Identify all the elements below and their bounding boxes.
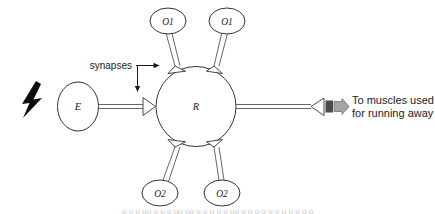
receptor-cell-e-label: E <box>74 101 82 112</box>
output-cell-o2-right-label: O2 <box>216 189 228 199</box>
receptor-cell-e: E <box>58 82 99 131</box>
arrow-right-icon <box>154 63 160 68</box>
synapse-terminal-e <box>143 98 156 116</box>
arrow-down-icon <box>135 86 140 92</box>
relay-neuron-r: R <box>156 67 236 147</box>
output-cell-o2-left: O2 <box>142 180 178 206</box>
relay-neuron-r-label: R <box>192 101 200 112</box>
output-cell-o2-right: O2 <box>204 180 240 206</box>
output-cell-o1-right-label: O1 <box>221 17 233 27</box>
synapses-label: synapses <box>90 60 132 71</box>
muscle-junction-block <box>326 101 334 113</box>
figure-canvas: E R O1 O1 <box>0 0 435 214</box>
output-arrow-icon <box>334 99 349 115</box>
axon-o2-right <box>207 140 225 181</box>
synapses-leader <box>135 63 160 92</box>
neural-circuit-diagram: E R O1 O1 <box>0 0 435 214</box>
axon-o1-right <box>207 32 228 74</box>
output-cell-o1-right: O1 <box>209 8 245 34</box>
muscles-caption-line-2: for running away <box>352 107 434 119</box>
muscles-caption-line-1: To muscles used <box>352 94 434 106</box>
footer-partial-caption: o o o oo o o o oo oo o o o o o oo o o o … <box>0 204 435 214</box>
axon-o1-left <box>166 32 186 74</box>
output-cell-o2-left-label: O2 <box>154 189 166 199</box>
output-cell-o1-left-label: O1 <box>162 17 174 27</box>
axon-e-to-r <box>98 98 156 116</box>
output-cell-o1-left: O1 <box>150 8 186 34</box>
synapse-terminal-muscles <box>311 98 324 116</box>
stimulus-lightning-icon <box>22 81 42 118</box>
axon-o2-left <box>163 140 186 182</box>
axon-r-to-muscles <box>236 98 349 116</box>
